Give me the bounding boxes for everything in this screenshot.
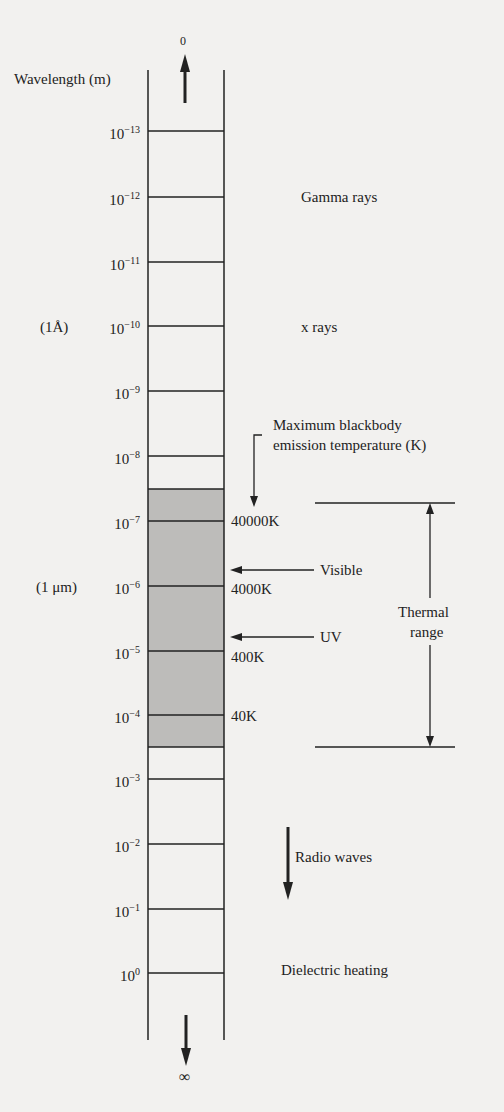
radio-down-arrow <box>283 827 293 900</box>
infinity-symbol: ∞ <box>179 1068 190 1086</box>
thermal-band-shading <box>148 489 224 747</box>
thermal-range-label-line1: Thermal <box>398 603 449 621</box>
tick-label: 10−3 <box>70 769 140 791</box>
uv-arrow <box>230 633 314 641</box>
tick-label: 10−2 <box>70 834 140 856</box>
up-arrow-icon <box>180 54 190 103</box>
temp-label-40000k: 40000K <box>231 512 279 530</box>
tick-label: 10−6 <box>70 576 140 598</box>
spectrum-diagram <box>0 0 504 1112</box>
tick-label: 10−8 <box>70 446 140 468</box>
radio-waves-label: Radio waves <box>295 848 372 866</box>
tick-label: 10−5 <box>70 641 140 663</box>
temp-label-400k: 400K <box>231 648 264 666</box>
tick-label: 10−1 <box>70 899 140 921</box>
blackbody-title-line2: emission temperature (K) <box>273 436 426 454</box>
x-rays-label: x rays <box>301 318 337 336</box>
angstrom-note: (1Å) <box>40 318 68 336</box>
tick-label: 10−4 <box>70 705 140 727</box>
thermal-down-arrowhead <box>426 736 434 747</box>
micron-note: (1 μm) <box>36 578 77 596</box>
down-arrow-icon <box>181 1015 191 1066</box>
gamma-rays-label: Gamma rays <box>301 188 377 206</box>
tick-label: 10−9 <box>70 381 140 403</box>
dielectric-heating-label: Dielectric heating <box>281 961 388 979</box>
temp-label-40k: 40K <box>231 707 257 725</box>
tick-label: 10−13 <box>70 121 140 143</box>
blackbody-title-line1: Maximum blackbody <box>273 416 402 434</box>
visible-arrow <box>230 566 314 574</box>
axis-title: Wavelength (m) <box>14 70 111 88</box>
blackbody-pointer-arrow <box>250 435 262 507</box>
uv-label: UV <box>320 628 342 646</box>
tick-label: 10−7 <box>70 511 140 533</box>
temp-label-4000k: 4000K <box>231 580 272 598</box>
visible-label: Visible <box>320 561 362 579</box>
tick-label: 10−11 <box>70 252 140 274</box>
thermal-up-arrowhead <box>426 503 434 514</box>
tick-label: 10−10 <box>70 316 140 338</box>
tick-label: 10−12 <box>70 187 140 209</box>
tick-label: 100 <box>70 963 140 985</box>
zero-symbol: 0 <box>180 32 186 50</box>
thermal-range-label-line2: range <box>410 623 443 641</box>
